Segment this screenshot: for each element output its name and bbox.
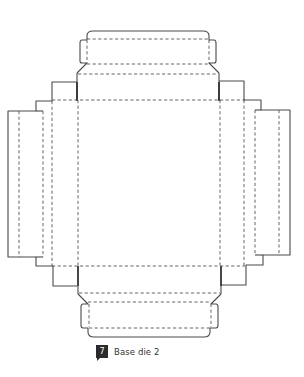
figure-number-badge: 7 <box>96 345 108 358</box>
bottom-tuck-tab <box>78 294 221 337</box>
left-side-flaps <box>8 82 77 286</box>
bottom-flap <box>78 266 221 294</box>
figure-title: Base die 2 <box>114 347 160 357</box>
main-base-panel <box>52 100 245 266</box>
box-base-die-diagram <box>0 0 304 377</box>
top-flap <box>77 73 219 101</box>
top-tuck-tab <box>77 31 219 73</box>
right-side-flaps <box>219 81 290 285</box>
figure-caption: 7 Base die 2 <box>96 345 160 358</box>
